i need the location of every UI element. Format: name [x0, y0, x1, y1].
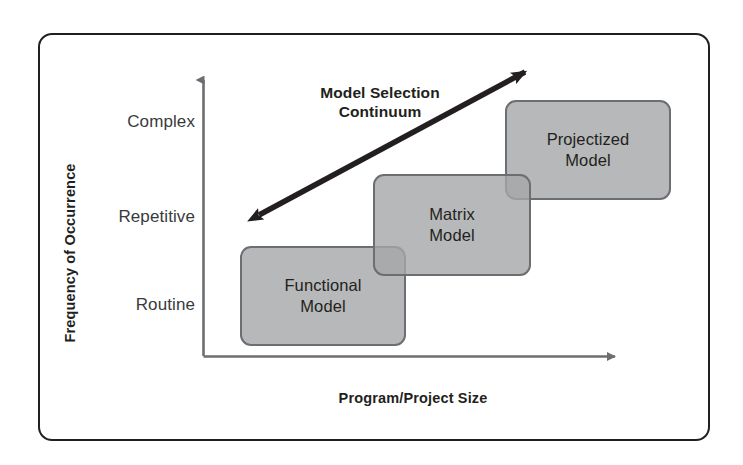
model-box-functional-label: Functional Model: [284, 275, 361, 317]
model-label-line-1: Functional: [284, 275, 361, 296]
continuum-caption-line-1: Model Selection: [282, 84, 478, 103]
figure-canvas: Frequency of Occurrence Complex Repetiti…: [0, 0, 743, 465]
model-box-matrix: Matrix Model: [373, 174, 531, 276]
y-axis-title: Frequency of Occurrence: [62, 123, 78, 383]
model-label-line-2: Model: [547, 150, 630, 171]
model-label-line-1: Projectized: [547, 129, 630, 150]
model-label-line-2: Model: [284, 296, 361, 317]
model-label-line-2: Model: [429, 225, 475, 246]
model-label-line-1: Matrix: [429, 204, 475, 225]
x-axis-title: Program/Project Size: [203, 390, 623, 406]
continuum-caption: Model Selection Continuum: [282, 84, 478, 122]
model-box-matrix-label: Matrix Model: [429, 204, 475, 246]
y-tick-label-repetitive: Repetitive: [118, 207, 195, 227]
continuum-caption-line-2: Continuum: [282, 103, 478, 122]
y-tick-label-complex: Complex: [127, 112, 195, 132]
y-tick-label-routine: Routine: [136, 295, 195, 315]
model-box-projectized-label: Projectized Model: [547, 129, 630, 171]
